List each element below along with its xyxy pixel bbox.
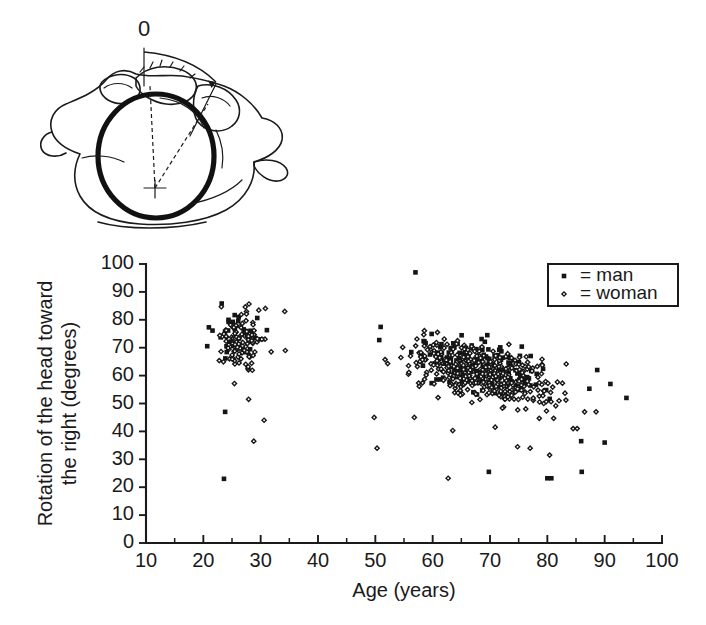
data-point-woman	[563, 397, 569, 403]
data-point-woman	[536, 415, 542, 421]
data-point-woman	[282, 308, 288, 314]
data-point-woman	[559, 380, 565, 386]
x-axis-tick-label: 70	[479, 549, 501, 571]
data-point-man	[579, 439, 584, 444]
y-axis-tick-label: 0	[123, 530, 134, 552]
data-point-man	[377, 338, 382, 343]
data-point-woman	[374, 445, 380, 451]
data-point-woman	[434, 329, 440, 335]
data-point-woman	[268, 349, 274, 355]
x-axis-title: Age (years)	[352, 579, 455, 601]
data-point-man	[236, 319, 241, 324]
data-point-woman	[251, 438, 257, 444]
legend-label-woman: = woman	[580, 282, 658, 303]
data-point-woman	[554, 379, 560, 385]
data-point-woman	[477, 396, 483, 402]
scatter-plot: 0102030405060708090100102030405060708090…	[0, 0, 706, 625]
data-point-man	[223, 410, 228, 415]
data-point-man	[587, 386, 592, 391]
data-point-woman	[413, 343, 419, 349]
data-point-man	[421, 363, 426, 368]
data-point-woman	[527, 445, 533, 451]
y-axis-tick-label: 100	[101, 251, 134, 273]
data-point-woman	[421, 332, 427, 338]
x-axis-tick-label: 10	[135, 549, 157, 571]
data-point-woman	[553, 403, 559, 409]
data-point-woman	[414, 336, 420, 342]
data-point-man	[439, 342, 444, 347]
data-point-man	[479, 337, 484, 342]
data-point-man	[528, 354, 533, 359]
data-point-woman	[256, 307, 262, 313]
x-axis-tick-label: 50	[364, 549, 386, 571]
y-axis-tick-label: 80	[112, 307, 134, 329]
data-point-woman	[231, 380, 237, 386]
data-point-man	[519, 344, 524, 349]
data-point-man	[207, 325, 212, 330]
data-point-man	[485, 333, 490, 338]
data-point-woman	[550, 384, 556, 390]
data-point-woman	[405, 363, 411, 369]
y-axis-tick-label: 50	[112, 391, 134, 413]
series-woman	[216, 301, 599, 481]
x-axis-tick-label: 60	[422, 549, 444, 571]
data-point-woman	[527, 388, 533, 394]
data-point-woman	[535, 387, 541, 393]
legend-marker-man	[562, 274, 567, 279]
data-point-man	[545, 476, 550, 481]
data-point-woman	[514, 444, 520, 450]
y-axis-tick-label: 10	[112, 502, 134, 524]
x-axis-tick-label: 40	[307, 549, 329, 571]
data-point-woman	[562, 390, 568, 396]
data-point-woman	[582, 409, 588, 415]
data-point-woman	[398, 354, 404, 360]
data-point-man	[205, 344, 210, 349]
data-point-woman	[556, 398, 562, 404]
x-axis-tick-label: 100	[645, 549, 678, 571]
data-point-woman	[246, 396, 252, 402]
data-point-woman	[547, 452, 553, 458]
data-point-man	[434, 377, 439, 382]
data-point-woman	[282, 347, 288, 353]
data-point-man	[579, 470, 584, 475]
data-point-man	[265, 328, 270, 333]
x-axis-tick-label: 30	[250, 549, 272, 571]
data-point-man	[222, 477, 227, 482]
data-point-woman	[523, 406, 529, 412]
data-point-woman	[543, 408, 549, 414]
data-point-man	[595, 368, 600, 373]
data-point-man	[255, 316, 260, 321]
data-point-man	[602, 440, 607, 445]
data-point-man	[624, 396, 629, 401]
data-point-woman	[371, 414, 377, 420]
data-point-woman	[400, 344, 406, 350]
data-point-woman	[469, 399, 475, 405]
x-axis-tick-label: 90	[594, 549, 616, 571]
data-point-woman	[464, 387, 470, 393]
y-axis-title: Rotation of the head towardthe right (de…	[34, 281, 80, 527]
y-axis-title-line2: the right (degrees)	[58, 322, 80, 485]
data-point-woman	[492, 424, 498, 430]
data-point-man	[429, 332, 434, 337]
y-axis-tick-label: 20	[112, 474, 134, 496]
data-point-woman	[506, 341, 512, 347]
data-point-man	[413, 270, 418, 275]
y-axis-tick-label: 90	[112, 279, 134, 301]
y-axis-tick-label: 40	[112, 419, 134, 441]
chart-legend[interactable]: = man= woman	[548, 264, 678, 306]
x-axis-tick-label: 80	[536, 549, 558, 571]
data-point-woman	[450, 427, 456, 433]
y-axis-tick-label: 70	[112, 335, 134, 357]
data-point-man	[549, 476, 554, 481]
data-point-man	[232, 313, 237, 318]
data-point-man	[498, 345, 503, 350]
data-point-woman	[445, 475, 451, 481]
data-point-woman	[515, 407, 521, 413]
figure-root: 0	[0, 0, 706, 625]
data-point-woman	[525, 396, 531, 402]
data-point-woman	[539, 356, 545, 362]
y-axis-title-line1: Rotation of the head toward	[34, 281, 56, 527]
data-point-man	[459, 333, 464, 338]
data-point-woman	[441, 336, 447, 342]
data-point-woman	[563, 361, 569, 367]
